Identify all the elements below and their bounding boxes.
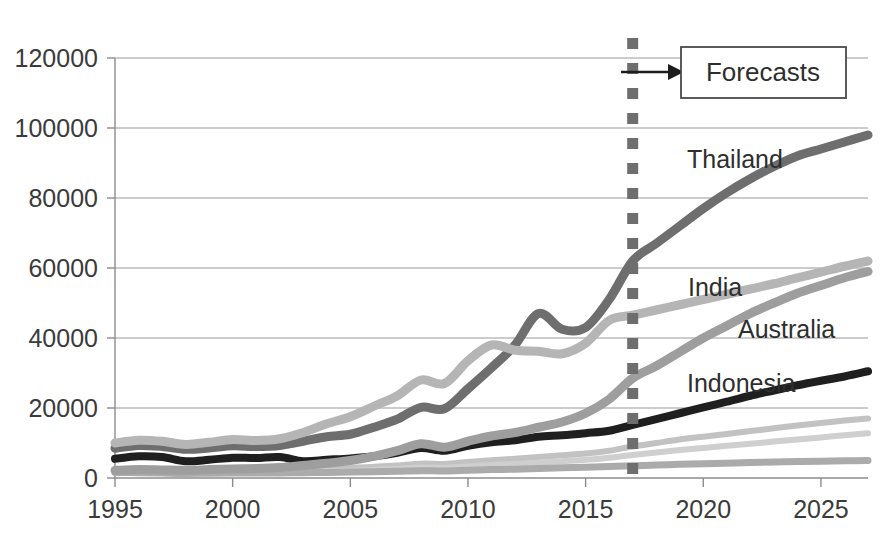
series-label-india: India: [688, 273, 742, 301]
y-axis-tick-label: 0: [84, 464, 98, 492]
x-axis-tick-label: 2025: [793, 495, 849, 523]
gridlines-group: [115, 58, 868, 408]
y-axis-tick-label: 20000: [28, 394, 98, 422]
x-axis-tick-label: 2020: [675, 495, 731, 523]
y-axis-tick-label: 40000: [28, 324, 98, 352]
y-axis-tick-label: 120000: [15, 44, 98, 72]
series-lines-group: [115, 135, 868, 473]
forecast-label: Forecasts: [706, 57, 820, 87]
x-axis-tick-label: 1995: [87, 495, 143, 523]
series-line-india: [115, 261, 868, 444]
series-label-thailand: Thailand: [687, 145, 783, 173]
series-label-indonesia: Indonesia: [687, 369, 796, 397]
forecast-callout: Forecasts: [621, 47, 846, 98]
y-axis-tick-label: 80000: [28, 184, 98, 212]
x-axis-tick-label: 2000: [205, 495, 261, 523]
axes-group: [107, 58, 868, 487]
x-axis-tick-label: 2010: [440, 495, 496, 523]
y-axis-tick-label: 60000: [28, 254, 98, 282]
line-chart: 0200004000060000800001000001200001995200…: [0, 0, 881, 547]
series-label-australia: Australia: [738, 315, 835, 343]
y-axis-tick-label: 100000: [15, 114, 98, 142]
x-axis-tick-label: 2005: [323, 495, 379, 523]
x-axis-tick-label: 2015: [558, 495, 614, 523]
chart-container: 0200004000060000800001000001200001995200…: [0, 0, 881, 547]
